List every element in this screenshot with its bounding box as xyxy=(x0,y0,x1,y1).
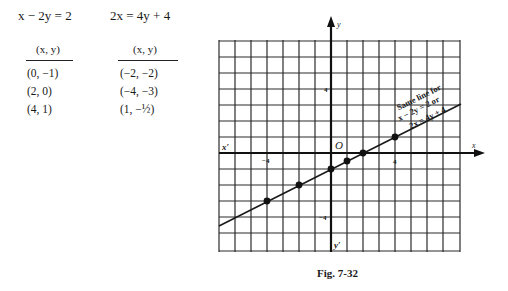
figure-caption: Fig. 7-32 xyxy=(317,267,358,279)
x-axis-arrow-icon xyxy=(474,149,485,157)
tick-label-x-neg4: −4 xyxy=(262,157,270,165)
point xyxy=(264,198,271,205)
tick-label-y-pos4: 4 xyxy=(324,86,328,94)
coordinate-graph: O x x′ y y′ −4 4 4 −4 Same line for x − … xyxy=(0,0,508,291)
point xyxy=(344,158,351,165)
point xyxy=(296,182,303,189)
tick-label-y-neg4: −4 xyxy=(319,214,327,222)
point xyxy=(392,134,399,141)
x-axis-label: x xyxy=(471,141,476,150)
origin-label: O xyxy=(335,139,343,151)
tick-label-x-pos4: 4 xyxy=(393,158,397,166)
y-axis-arrow-icon xyxy=(327,16,335,27)
y-axis-label: y xyxy=(336,20,341,29)
point xyxy=(328,166,335,173)
x-neg-axis-label: x′ xyxy=(221,142,230,152)
point xyxy=(360,150,367,157)
y-neg-axis-label: y′ xyxy=(333,240,341,250)
